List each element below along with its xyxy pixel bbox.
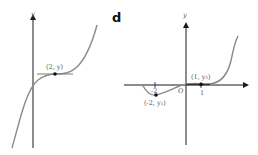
right-y-axis-label: y [182,11,187,19]
origin-label: O [178,87,184,95]
point-1 [199,83,203,87]
point-minus-2 [154,93,158,97]
panel-label-d: d [112,10,121,25]
left-graph: y (2, y) [12,10,97,148]
left-point [53,72,57,76]
right-graph: d y O -2 1 (-2, y₁) (1, y₂) [112,10,246,145]
left-curve [12,25,97,148]
point-label-minus-2: (-2, y₁) [144,99,166,107]
tick-label-1: 1 [200,89,204,97]
point-label-1: (1, y₂) [191,73,211,81]
left-y-axis-label: y [30,10,35,18]
figure: y (2, y) d y O -2 1 (-2, y₁) (1, y₂) [0,0,258,155]
left-point-label: (2, y) [46,63,63,71]
